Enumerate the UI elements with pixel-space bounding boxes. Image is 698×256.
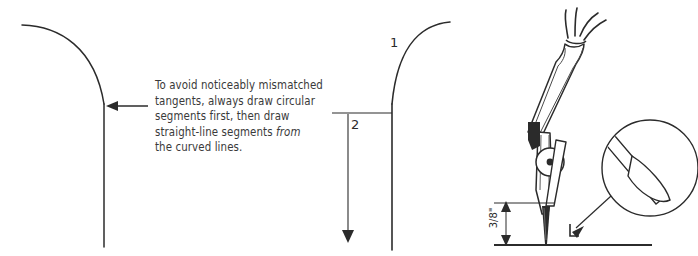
compass-lead-holder bbox=[528, 122, 540, 150]
drawing-order-diagram: 1 2 bbox=[330, 0, 480, 256]
caption-panel: To avoid noticeably mismatched tangents,… bbox=[150, 0, 330, 256]
tangent-arrow-head bbox=[106, 101, 118, 111]
curve-segment bbox=[22, 25, 104, 104]
curve-step-one bbox=[392, 22, 450, 104]
step-one-label: 1 bbox=[390, 36, 398, 49]
caption-text: To avoid noticeably mismatched tangents,… bbox=[155, 78, 330, 156]
step-two-arrow-head bbox=[342, 230, 354, 243]
compass-needle-point bbox=[542, 206, 550, 244]
compass-fork-head bbox=[565, 8, 606, 44]
caption-line-2: tangents, always draw circular bbox=[155, 94, 330, 110]
figure-canvas: To avoid noticeably mismatched tangents,… bbox=[0, 0, 698, 256]
caption-line-4-text: straight-line segments bbox=[155, 125, 276, 139]
caption-line-4: straight-line segments from bbox=[155, 125, 330, 141]
tangent-junction-diagram bbox=[0, 0, 150, 256]
compass-needle-detail: 3/8" bbox=[480, 0, 698, 256]
caption-line-4-emphasis: from bbox=[276, 125, 300, 139]
dimension-label-3-8-inch: 3/8" bbox=[472, 210, 516, 226]
step-two-label: 2 bbox=[351, 118, 359, 131]
caption-line-3: segments first, then draw bbox=[155, 109, 330, 125]
caption-line-5: the curved lines. bbox=[155, 140, 330, 156]
caption-line-1: To avoid noticeably mismatched bbox=[155, 78, 330, 94]
left-diagram-svg bbox=[0, 0, 150, 256]
